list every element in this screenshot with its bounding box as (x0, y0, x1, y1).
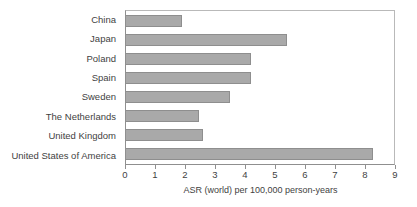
category-label: United States of America (0, 146, 121, 165)
bar-row (126, 11, 394, 30)
category-axis: ChinaJapanPolandSpainSwedenThe Netherlan… (0, 10, 121, 165)
x-tick-label: 9 (385, 170, 405, 180)
bar-row (126, 88, 394, 107)
x-tick-label: 1 (145, 170, 165, 180)
category-label: The Netherlands (0, 107, 121, 126)
bar (126, 110, 199, 122)
bar (126, 148, 373, 160)
x-axis: 0123456789 (125, 165, 396, 185)
bar-row (126, 126, 394, 145)
bar-row (126, 145, 394, 164)
x-axis-title: ASR (world) per 100,000 person-years (125, 186, 396, 195)
bar-row (126, 49, 394, 68)
x-tick-label: 2 (175, 170, 195, 180)
bar-chart: ChinaJapanPolandSpainSwedenThe Netherlan… (0, 0, 417, 207)
plot-area (125, 10, 395, 165)
x-tick-label: 5 (265, 170, 285, 180)
bar-row (126, 30, 394, 49)
bar (126, 72, 251, 84)
category-label: Japan (0, 29, 121, 48)
bar (126, 91, 230, 103)
category-label: China (0, 10, 121, 29)
bar-row (126, 68, 394, 87)
bar-series (126, 11, 394, 164)
bar-row (126, 107, 394, 126)
x-tick-label: 4 (235, 170, 255, 180)
x-tick-label: 0 (115, 170, 135, 180)
x-tick-label: 3 (205, 170, 225, 180)
x-tick-label: 7 (325, 170, 345, 180)
x-tick-label: 8 (355, 170, 375, 180)
category-label: United Kingdom (0, 126, 121, 145)
category-label: Spain (0, 68, 121, 87)
x-tick-label: 6 (295, 170, 315, 180)
bar (126, 53, 251, 65)
bar (126, 15, 182, 27)
bar (126, 129, 203, 141)
category-label: Poland (0, 49, 121, 68)
bar (126, 34, 287, 46)
category-label: Sweden (0, 88, 121, 107)
